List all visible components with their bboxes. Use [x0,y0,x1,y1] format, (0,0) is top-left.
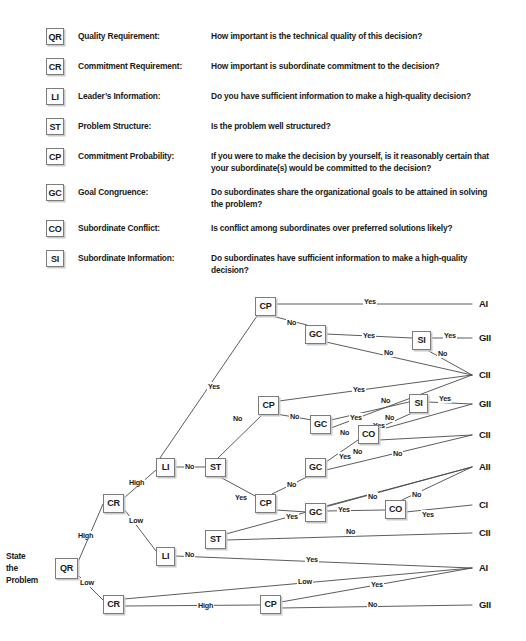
legend-row: GCGoal Congruence:Do subordinates share … [0,184,526,210]
tree-edge [218,415,262,458]
decision-node-gc[interactable]: GC [305,503,326,522]
legend-term-label: Commitment Requirement: [78,58,211,75]
tree-edge [379,404,472,430]
tree-edge [276,414,312,420]
edge-label: Yes [352,385,366,394]
edge-label: No [289,412,300,421]
edge-label: No [367,492,378,501]
decision-node-cr[interactable]: CR [103,595,124,614]
outcome-label: CII [479,369,490,380]
decision-node-cp[interactable]: CP [260,595,281,614]
outcome-label: GII [479,332,491,343]
edge-label: No [352,447,363,456]
legend-term-label: Quality Requirement: [78,28,211,45]
edge-label: Yes [349,413,363,422]
legend-term-label: Commitment Probability: [78,148,211,165]
edge-label: Yes [372,421,386,430]
legend-term-label: Goal Congruence: [78,184,211,201]
start-label-line: Problem [6,574,38,586]
legend-description: Do subordinates have sufficient informat… [211,250,501,276]
legend-row: LILeader’s Information:Do you have suffi… [0,88,526,108]
edge-label: High [77,531,94,540]
decision-node-qr[interactable]: QR [55,558,78,579]
edge-label: No [383,348,394,357]
outcome-label: GII [479,599,491,610]
legend-description: Do you have sufficient information to ma… [211,88,501,103]
outcome-label: AI [479,298,488,309]
decision-node-co[interactable]: CO [358,425,379,444]
decision-node-li[interactable]: LI [156,458,175,477]
legend-description: Is conflict among subordinates over pref… [211,220,501,235]
tree-edge [379,435,472,440]
edge-label: High [128,478,145,487]
outcome-label: CII [479,429,490,440]
tree-edge [281,605,472,608]
decision-node-st[interactable]: ST [205,530,226,549]
edge-label: Yes [438,394,452,403]
legend-code-box: ST [46,118,64,135]
edge-label: No [232,414,243,423]
legend-code-box: SI [46,250,64,267]
edge-label: No [411,490,422,499]
decision-node-cp[interactable]: CP [258,396,279,415]
edge-label: No [339,428,350,437]
legend-description: How important is the technical quality o… [211,28,501,43]
decision-node-gc[interactable]: GC [305,325,326,344]
tree-edge [124,509,156,551]
edge-label: Yes [285,512,299,521]
edge-label: Yes [370,580,384,589]
tree-edge [124,605,260,606]
start-label-line: the [6,562,38,574]
edge-label: Yes [337,505,351,514]
edge-label: Yes [363,297,377,306]
tree-edge [402,467,472,500]
decision-node-gc[interactable]: GC [305,458,326,477]
legend-code-box: LI [46,88,64,105]
decision-node-cp[interactable]: CP [255,494,276,513]
tree-edge [326,467,472,506]
decision-node-cr[interactable]: CR [103,494,124,513]
decision-node-gc[interactable]: GC [310,415,331,434]
edge-label: High [197,601,214,610]
edge-label: Yes [207,382,221,391]
tree-edge [272,316,307,325]
decision-node-co[interactable]: CO [385,500,406,519]
tree-edge [326,435,472,470]
legend-row: SISubordinate Information:Do subordinate… [0,250,526,276]
tree-edge [427,350,472,375]
edge-label: No [286,318,297,327]
tree-edge [279,375,472,401]
tree-edge [124,568,472,599]
edge-label: No [286,480,297,489]
decision-node-li[interactable]: LI [156,547,175,566]
legend-term-label: Problem Structure: [78,118,211,135]
decision-node-si[interactable]: SI [409,394,428,413]
decision-node-st[interactable]: ST [205,458,226,477]
outcome-label: AII [479,461,490,472]
edge-label: Low [79,578,95,587]
edge-label: Yes [443,331,457,340]
edge-label: Yes [305,555,319,564]
tree-edge [78,504,103,562]
decision-node-cp[interactable]: CP [255,297,276,316]
tree-edge [326,510,385,511]
decision-node-si[interactable]: SI [412,331,431,350]
edge-label: Low [128,516,144,525]
legend-description: How important is subordinate commitment … [211,58,501,73]
tree-edge [331,402,409,420]
legend-code-box: GC [46,184,64,201]
legend-code-box: CP [46,148,64,165]
legend-row: CPCommitment Probability:If you were to … [0,148,526,174]
legend-description: Is the problem well structured? [211,118,501,133]
edge-label: No [367,600,378,609]
edge-label: Low [297,577,313,586]
tree-edge [428,402,472,404]
legend-code-box: QR [46,28,64,45]
legend-row: QRQuality Requirement:How important is t… [0,28,526,48]
tree-edge [220,477,257,497]
outcome-label: GII [479,398,491,409]
edge-label: Yes [234,493,248,502]
start-label: StatetheProblem [6,550,38,586]
tree-edge [406,505,472,512]
tree-edge [326,342,472,375]
